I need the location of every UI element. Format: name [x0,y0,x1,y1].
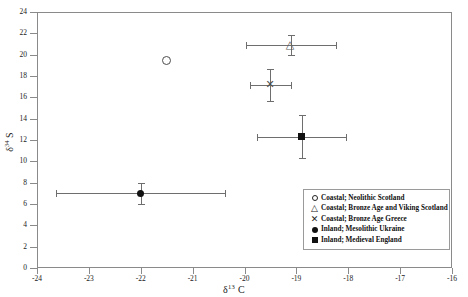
x-axis-tick-label: -20 [231,275,259,283]
error-bar-cap-bottom [288,55,295,56]
error-bar-cap-top [288,35,295,36]
y-axis-title-superscript: 34 [3,141,10,148]
y-axis-tick [30,12,37,13]
y-axis-tick-label: 4 [8,221,27,229]
scatter-chart-figure: 024681012141618202224 -24-23-22-21-20-19… [0,0,468,297]
error-bar-cap-top [267,69,274,70]
x-axis-tick-label: -18 [334,275,362,283]
legend-item: Coastal; Neolithic Scotland [308,193,445,203]
error-bar-cap-top [138,183,145,184]
marker-cross: ✕ [265,79,274,90]
error-bar-cap-right [336,42,337,49]
error-bar-cap-bottom [299,158,306,159]
x-axis-tick-label: -24 [23,275,51,283]
legend-label: Coastal; Bronze Age Greece [321,215,407,224]
legend-symbol [308,193,321,203]
y-axis-tick-label: 18 [8,72,27,80]
y-axis-tick-label: 2 [8,243,27,251]
x-axis-tick-label: -19 [282,275,310,283]
legend-label: Coastal; Neolithic Scotland [321,194,404,203]
y-axis-tick [30,161,37,162]
legend-label: Inland; Mesolithic Ukraine [321,225,404,234]
legend-symbol [308,225,321,235]
legend-symbol-filled-circle-icon [312,227,318,233]
legend-item: △Coastal; Bronze Age and Viking Scotland [308,204,445,214]
legend-symbol-filled-square-icon [312,237,318,243]
legend-symbol: △ [308,204,321,214]
y-axis-tick [30,204,37,205]
x-axis-tick-label: -16 [438,275,466,283]
marker-open-circle [162,56,171,65]
y-axis-tick [30,97,37,98]
x-axis-tick-label: -23 [75,275,103,283]
error-bar-cap-bottom [138,204,145,205]
legend-label: Coastal; Bronze Age and Viking Scotland [321,204,448,213]
legend-label: Inland; Medieval England [321,236,402,245]
y-axis-tick-label: 0 [8,264,27,272]
y-axis-title-base: δ [4,147,15,152]
y-axis-tick [30,33,37,34]
y-axis-tick [30,140,37,141]
legend-item: ✕Coastal; Bronze Age Greece [308,214,445,224]
y-axis-tick-label: 6 [8,200,27,208]
y-axis-tick [30,183,37,184]
x-axis-title: δ13 C [0,283,468,295]
y-axis-title-tail: S [4,133,15,141]
chart-legend: Coastal; Neolithic Scotland△Coastal; Bro… [303,189,450,250]
legend-symbol-open-triangle-icon: △ [311,204,318,213]
x-axis-tick-label: -17 [386,275,414,283]
legend-item: Inland; Mesolithic Ukraine [308,225,445,235]
y-axis-tick-label: 22 [8,29,27,37]
y-axis-tick [30,268,37,269]
y-axis-tick-label: 16 [8,93,27,101]
legend-item: Inland; Medieval England [308,235,445,245]
error-bar-cap-bottom [267,101,274,102]
y-axis-tick-label: 20 [8,51,27,59]
error-bar-cap-right [346,134,347,141]
x-axis-tick-label: -22 [127,275,155,283]
x-axis-tick-label: -21 [179,275,207,283]
error-bar-cap-right [225,190,226,197]
y-axis-tick [30,225,37,226]
legend-symbol-open-circle-icon [312,195,318,201]
y-axis-tick [30,247,37,248]
x-axis-title-tail: C [235,284,245,295]
error-bar-cap-top [299,115,306,116]
error-bar-cap-left [257,134,258,141]
error-bar-cap-left [250,82,251,89]
error-bar-cap-left [56,190,57,197]
y-axis-tick-label: 24 [8,8,27,16]
legend-symbol: ✕ [308,214,321,224]
legend-symbol [308,235,321,245]
error-bar-cap-left [246,42,247,49]
y-axis-title: δ34 S [2,120,16,166]
y-axis-tick [30,55,37,56]
error-bar-cap-right [291,82,292,89]
legend-symbol-cross-icon: ✕ [311,215,319,224]
y-axis-tick [30,119,37,120]
y-axis-tick [30,76,37,77]
y-axis-tick-label: 8 [8,179,27,187]
marker-open-triangle: △ [286,39,294,50]
marker-filled-square [298,133,305,140]
